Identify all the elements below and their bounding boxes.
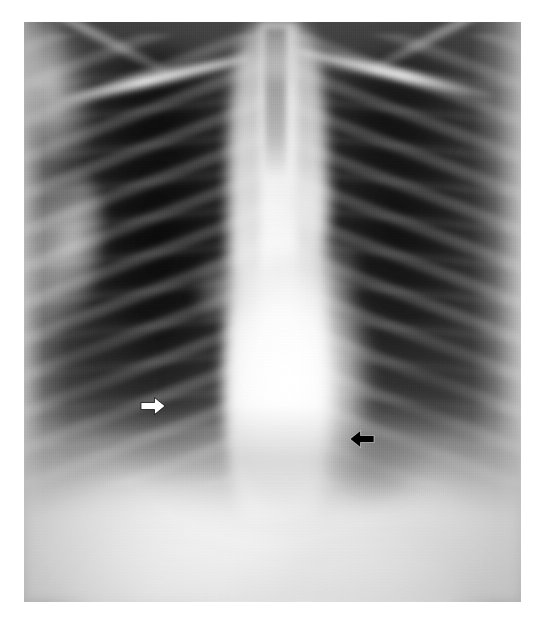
arrow-left-icon xyxy=(349,429,375,449)
radiograph-figure xyxy=(0,0,546,637)
gastric-bubble xyxy=(322,416,431,509)
radiograph-plate xyxy=(24,22,521,602)
diaphragm xyxy=(24,405,521,602)
arrow-right-icon xyxy=(140,396,166,416)
aortic-knob xyxy=(287,167,337,237)
